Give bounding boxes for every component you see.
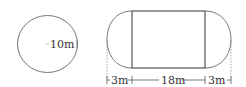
circle-figure: 10m xyxy=(18,16,78,73)
dim-left-label: 3m xyxy=(111,74,129,87)
dim-right-label: 3m xyxy=(208,74,226,87)
dim-middle-label: 18m xyxy=(161,74,186,87)
circle-radius-label: 10m xyxy=(50,38,75,51)
dimension-line: 3m 18m 3m xyxy=(107,74,231,87)
diagram-canvas: 10m 3m 18m 3m xyxy=(0,0,246,87)
right-semicircle xyxy=(205,11,231,68)
stadium-figure xyxy=(107,11,231,78)
left-semicircle xyxy=(107,11,132,68)
